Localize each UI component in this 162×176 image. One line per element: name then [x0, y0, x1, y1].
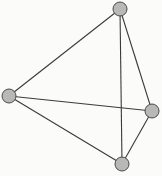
- node-bottom: [115, 157, 129, 171]
- edges-layer: [9, 9, 152, 164]
- edge-top-bottom: [120, 9, 122, 164]
- edge-top-right: [120, 9, 152, 111]
- tetrahedron-diagram: [0, 0, 162, 176]
- edge-right-bottom: [122, 111, 152, 164]
- graph-svg: [0, 0, 162, 176]
- node-right: [145, 104, 159, 118]
- node-left: [2, 89, 16, 103]
- edge-top-left: [9, 9, 120, 96]
- nodes-layer: [2, 2, 159, 171]
- node-top: [113, 2, 127, 16]
